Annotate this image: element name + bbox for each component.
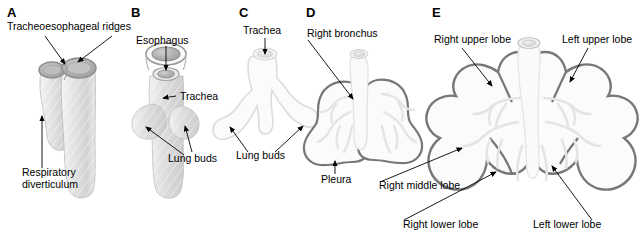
label-lung-buds-c: Lung buds bbox=[236, 150, 285, 162]
panel-c-structure bbox=[213, 48, 318, 140]
label-esophagus: Esophagus bbox=[136, 35, 189, 47]
label-right-lower-lobe: Right lower lobe bbox=[403, 219, 478, 231]
label-respiratory-diverticulum-line2: diverticulum bbox=[22, 179, 78, 191]
label-pleura: Pleura bbox=[321, 174, 351, 186]
panel-e-structure bbox=[426, 38, 637, 190]
panel-letter-c: C bbox=[239, 6, 248, 19]
label-left-lower-lobe: Left lower lobe bbox=[533, 219, 601, 231]
label-respiratory-diverticulum-line1: Respiratory bbox=[22, 167, 76, 179]
label-lung-buds-b: Lung buds bbox=[168, 153, 217, 165]
panel-letter-e: E bbox=[432, 6, 441, 19]
panel-letter-a: A bbox=[7, 6, 16, 19]
label-right-bronchus: Right bronchus bbox=[307, 28, 378, 40]
label-tracheoesophageal-ridges: Tracheoesophageal ridges bbox=[7, 21, 131, 33]
panel-letter-d: D bbox=[306, 6, 315, 19]
label-trachea-b: Trachea bbox=[180, 91, 218, 103]
panel-b-structure bbox=[132, 43, 199, 198]
label-trachea-c: Trachea bbox=[243, 25, 281, 37]
panel-d-structure bbox=[304, 50, 422, 166]
label-left-upper-lobe: Left upper lobe bbox=[562, 34, 632, 46]
panel-letter-b: B bbox=[131, 6, 140, 19]
figure-lung-development: A B C D E Tracheoesophageal ridges Respi… bbox=[0, 0, 644, 240]
label-right-upper-lobe: Right upper lobe bbox=[434, 34, 511, 46]
label-right-middle-lobe: Right middle lobe bbox=[379, 180, 460, 192]
